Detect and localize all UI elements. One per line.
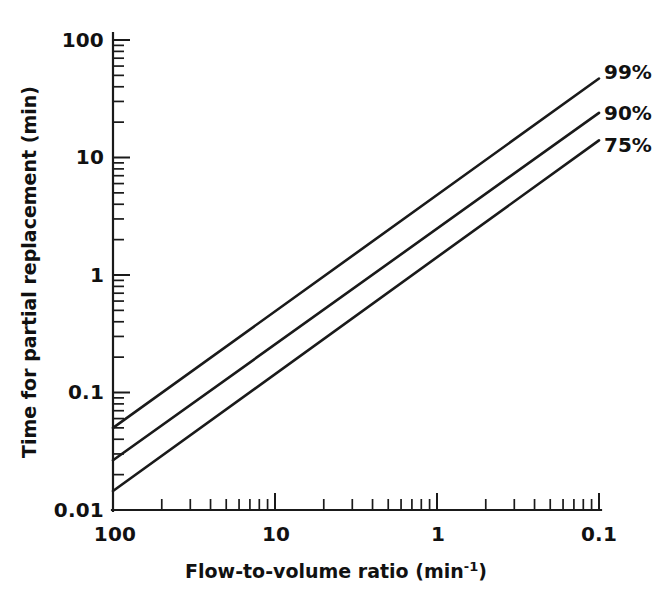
series-label-75: 75% (604, 133, 652, 157)
y-tick-label-0.01: 0.01 (54, 498, 104, 522)
x-axis-title-superscript: -1 (464, 559, 478, 574)
x-axis-title-tail: ) (478, 560, 487, 582)
series-label-99: 99% (604, 60, 652, 84)
y-axis-ticks (113, 40, 130, 510)
series-line-90pct (113, 113, 599, 460)
x-tick-label-100: 100 (94, 522, 136, 546)
x-axis-ticks (113, 493, 599, 510)
x-tick-label-1: 1 (431, 522, 445, 546)
y-tick-label-10: 10 (76, 145, 104, 169)
x-tick-label-0.1: 0.1 (581, 522, 617, 546)
log-log-plot: 100 10 1 0.1 0.01 100 10 1 0.1 99% 90% 7… (0, 0, 665, 601)
y-axis-title: Time for partial replacement (min) (18, 86, 40, 458)
x-axis-title: Flow-to-volume ratio (min-1) (185, 559, 487, 582)
series-lines-group (113, 79, 599, 492)
y-tick-label-100: 100 (62, 28, 104, 52)
x-axis-title-base: Flow-to-volume ratio (min (185, 560, 464, 582)
series-label-90: 90% (604, 101, 652, 125)
y-tick-label-1: 1 (90, 263, 104, 287)
series-line-75pct (113, 140, 599, 491)
y-tick-label-0.1: 0.1 (68, 380, 104, 404)
x-tick-label-10: 10 (262, 522, 290, 546)
chart-figure: 100 10 1 0.1 0.01 100 10 1 0.1 99% 90% 7… (0, 0, 665, 601)
series-line-99pct (113, 79, 599, 428)
